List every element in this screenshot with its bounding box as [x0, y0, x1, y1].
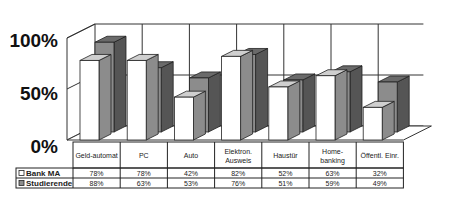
bar-side	[208, 72, 220, 132]
legend-swatch	[19, 181, 24, 186]
bar-bank-ma	[174, 91, 205, 140]
category-label: banking	[320, 157, 345, 165]
bar-side	[397, 76, 409, 132]
legend-swatch	[19, 171, 24, 176]
bar-front	[80, 60, 99, 140]
chart: 0% 50% 100% Geld-automatPCAutoElektron.A…	[0, 0, 457, 200]
bar-front	[363, 107, 382, 140]
data-table: Geld-automatPCAutoElektron.AusweisHaustü…	[16, 142, 403, 188]
data-label: 63%	[326, 170, 340, 177]
bar-side	[193, 91, 205, 140]
table-header	[73, 142, 403, 168]
bar-bank-ma	[316, 70, 347, 140]
data-label: 59%	[326, 180, 340, 187]
category-label: Auto	[184, 152, 199, 159]
data-label: 76%	[231, 180, 245, 187]
bar-front	[174, 97, 193, 140]
data-label: 42%	[184, 170, 198, 177]
bars	[80, 36, 409, 140]
legend-label: Studierende	[26, 179, 73, 188]
legend-label: Bank MA	[26, 169, 60, 178]
bar-side	[382, 101, 394, 140]
data-label: 52%	[278, 170, 292, 177]
bar-front	[222, 56, 241, 140]
bar-bank-ma	[127, 54, 158, 140]
bar-side	[256, 48, 268, 132]
data-label: 32%	[373, 170, 387, 177]
data-label: 53%	[184, 180, 198, 187]
y-axis-top	[67, 24, 95, 38]
bar-side	[114, 36, 126, 132]
y-tick-label: 100%	[9, 30, 58, 51]
category-label: Home-	[322, 148, 344, 155]
bar-side	[288, 81, 300, 140]
category-label: Haustür	[273, 152, 298, 159]
bar-side	[161, 62, 173, 132]
category-label: Elektron.	[224, 148, 252, 155]
y-tick-label: 50%	[20, 83, 58, 104]
data-label: 88%	[90, 180, 104, 187]
data-label: 82%	[231, 170, 245, 177]
data-label: 78%	[137, 170, 151, 177]
category-label: Geld-automat	[75, 152, 117, 159]
category-label: Öffentl. Einr.	[361, 152, 399, 159]
data-label: 63%	[137, 180, 151, 187]
y-tick-label: 0%	[31, 136, 59, 157]
data-label: 49%	[373, 180, 387, 187]
bar-side	[146, 54, 158, 140]
bar-bank-ma	[80, 54, 111, 140]
data-label: 51%	[278, 180, 292, 187]
data-label: 78%	[90, 170, 104, 177]
category-label: Ausweis	[225, 157, 252, 164]
bar-front	[127, 60, 146, 140]
bar-front	[316, 76, 335, 140]
bar-bank-ma	[269, 81, 300, 140]
bar-side	[241, 50, 253, 140]
bar-side	[335, 70, 347, 140]
bar-side	[350, 66, 362, 132]
bar-bank-ma	[363, 101, 394, 140]
bar-side	[303, 74, 315, 132]
y-axis: 0% 50% 100%	[9, 30, 58, 157]
bar-bank-ma	[222, 50, 253, 140]
bar-front	[269, 87, 288, 140]
category-label: PC	[139, 152, 149, 159]
bar-side	[99, 54, 111, 140]
